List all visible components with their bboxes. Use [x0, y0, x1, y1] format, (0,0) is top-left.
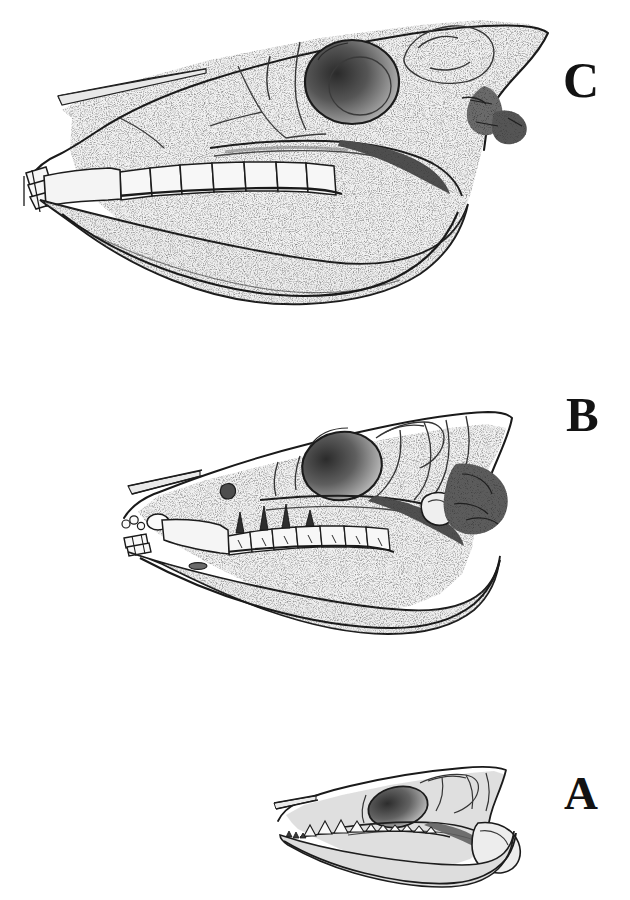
skull-a-incisors	[286, 831, 306, 838]
illustration-plate: C	[0, 0, 630, 900]
skull-illustration-b	[110, 370, 565, 650]
skull-c-orbit	[305, 40, 399, 124]
skull-b-mental-foramen	[189, 563, 207, 570]
skull-c-diastema	[44, 168, 121, 206]
skull-b-diastema	[162, 520, 229, 554]
skull-illustration-a	[270, 755, 540, 895]
figure-panel-b	[110, 370, 565, 650]
figure-label-b: B	[566, 390, 599, 439]
figure-panel-a	[270, 755, 540, 895]
skull-b-infraorbital-foramen	[220, 484, 235, 499]
figure-label-a: A	[564, 770, 598, 817]
figure-panel-c	[0, 0, 560, 340]
figure-label-c: C	[563, 55, 599, 105]
skull-b-occipital-shading	[444, 464, 508, 535]
skull-illustration-c	[0, 0, 560, 340]
